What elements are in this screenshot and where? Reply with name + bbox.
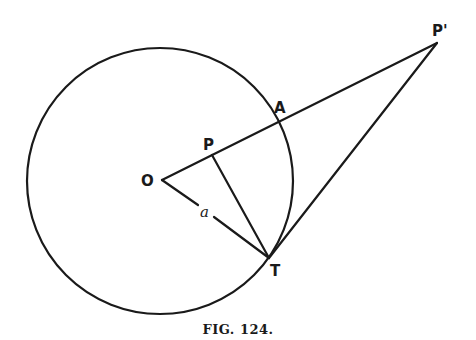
label-a: A	[274, 99, 286, 117]
circle	[27, 48, 293, 314]
label-p: P	[203, 136, 214, 154]
label-t: T	[270, 262, 281, 280]
geometry-figure: O P A P' T a FIG. 124.	[0, 0, 476, 340]
radius-o-t-upper	[162, 180, 198, 205]
tangent-p-prime-t	[269, 43, 437, 258]
label-o: O	[141, 172, 154, 190]
line-o-p-prime	[162, 43, 437, 180]
line-p-t	[212, 155, 269, 258]
label-radius-a: a	[200, 203, 209, 221]
label-p-prime: P'	[432, 22, 448, 40]
figure-caption: FIG. 124.	[202, 322, 273, 337]
radius-o-t-lower	[214, 217, 269, 258]
